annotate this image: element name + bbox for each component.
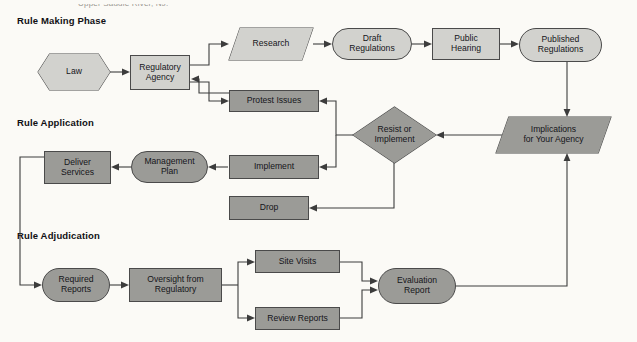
node-published-regulations[interactable]: Published Regulations <box>519 28 602 62</box>
node-law-label: Law <box>64 67 84 77</box>
node-implement[interactable]: Implement <box>229 155 319 179</box>
node-required-reports[interactable]: Required Reports <box>42 268 110 302</box>
section-heading-rule-making: Rule Making Phase <box>17 15 106 26</box>
node-site-visits-label: Site Visits <box>277 257 319 267</box>
node-draft-regulations[interactable]: Draft Regulations <box>332 28 412 60</box>
node-research[interactable]: Research <box>229 28 313 60</box>
node-evaluation-report[interactable]: Evaluation Report <box>378 268 456 304</box>
node-draft-regulations-label: Draft Regulations <box>347 34 396 53</box>
page-header-crumb: Upper Saddle River, NJ. <box>78 0 168 8</box>
node-public-hearing-label: Public Hearing <box>449 34 483 53</box>
node-oversight-from-regulatory-label: Oversight from Regulatory <box>145 275 205 294</box>
node-deliver-services[interactable]: Deliver Services <box>44 151 111 184</box>
node-implications[interactable]: Implications for Your Agency <box>496 117 611 153</box>
node-review-reports-label: Review Reports <box>265 314 330 324</box>
flowchart-canvas: Upper Saddle River, NJ. Rule Making Phas… <box>0 0 637 342</box>
node-drop-label: Drop <box>258 203 281 213</box>
node-oversight-from-regulatory[interactable]: Oversight from Regulatory <box>129 268 222 302</box>
node-evaluation-report-label: Evaluation Report <box>395 276 439 295</box>
section-heading-rule-application: Rule Application <box>17 117 94 128</box>
node-site-visits[interactable]: Site Visits <box>255 250 340 273</box>
node-resist-or-implement-label: Resist or Implement <box>372 125 416 144</box>
node-review-reports[interactable]: Review Reports <box>255 307 340 330</box>
node-regulatory-agency[interactable]: Regulatory Agency <box>130 55 190 90</box>
node-published-regulations-label: Published Regulations <box>536 35 585 54</box>
node-law[interactable]: Law <box>38 54 110 90</box>
node-management-plan[interactable]: Management Plan <box>131 151 208 183</box>
node-regulatory-agency-label: Regulatory Agency <box>137 63 183 82</box>
node-protest-issues-label: Protest Issues <box>245 96 303 106</box>
node-drop[interactable]: Drop <box>229 196 309 220</box>
node-protest-issues[interactable]: Protest Issues <box>229 90 319 112</box>
node-resist-or-implement[interactable]: Resist or Implement <box>353 107 436 163</box>
node-public-hearing[interactable]: Public Hearing <box>432 28 500 60</box>
section-heading-rule-adjudication: Rule Adjudication <box>17 230 100 241</box>
node-required-reports-label: Required Reports <box>57 275 96 294</box>
node-implement-label: Implement <box>252 162 296 172</box>
node-management-plan-label: Management Plan <box>142 157 196 176</box>
node-implications-label: Implications for Your Agency <box>521 125 585 144</box>
node-research-label: Research <box>251 39 292 49</box>
node-deliver-services-label: Deliver Services <box>59 158 96 177</box>
